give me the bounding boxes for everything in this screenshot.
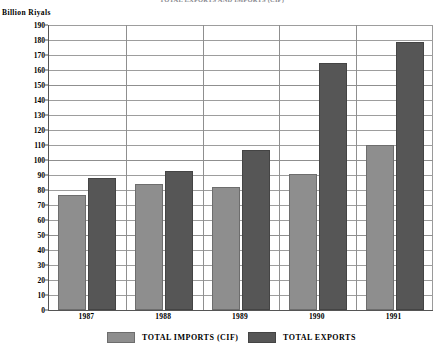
y-axis-tick-label: 120 [3, 126, 45, 135]
gridline [49, 130, 433, 131]
y-axis-tick-label: 170 [3, 51, 45, 60]
y-axis-tick-label: 0 [3, 306, 45, 315]
x-axis-tick-label: 1991 [386, 312, 402, 321]
category-divider [203, 25, 204, 310]
y-axis-tick-label: 80 [3, 186, 45, 195]
x-axis-labels: 19871988198919901991 [48, 312, 432, 326]
bar-1990-exports [319, 63, 347, 311]
bar-1991-exports [396, 42, 424, 311]
y-axis-tick-label: 40 [3, 246, 45, 255]
y-axis-tick-label: 150 [3, 81, 45, 90]
category-divider [126, 25, 127, 310]
bar-1988-exports [165, 171, 193, 311]
gridline [49, 115, 433, 116]
y-axis-tick-label: 140 [3, 96, 45, 105]
gridline [49, 25, 433, 26]
x-axis-tick-label: 1988 [155, 312, 171, 321]
category-divider [356, 25, 357, 310]
plot-right-border [432, 25, 433, 310]
bar-1991-imports [366, 145, 394, 310]
x-axis-tick-label: 1987 [78, 312, 94, 321]
legend-swatch-icon [248, 332, 276, 343]
chart-title: TOTAL EXPORTS AND IMPORTS (CIF) [0, 0, 444, 3]
gridline [49, 55, 433, 56]
bar-1987-exports [88, 178, 116, 310]
legend-item-imports[interactable]: TOTAL IMPORTS (CIF) [107, 332, 239, 343]
y-axis-tick-label: 60 [3, 216, 45, 225]
y-axis-tick-label: 10 [3, 291, 45, 300]
bar-1990-imports [289, 174, 317, 311]
y-axis-tick-label: 70 [3, 201, 45, 210]
legend-label: TOTAL IMPORTS (CIF) [142, 333, 239, 342]
category-divider [279, 25, 280, 310]
bar-1987-imports [58, 195, 86, 311]
y-axis-tick-label: 110 [3, 141, 45, 150]
chart-legend: TOTAL IMPORTS (CIF)TOTAL EXPORTS [0, 332, 444, 348]
x-axis-tick-label: 1989 [232, 312, 248, 321]
y-axis-tick-label: 30 [3, 261, 45, 270]
y-axis-tick-label: 160 [3, 66, 45, 75]
y-axis-tick-label: 130 [3, 111, 45, 120]
y-axis-ticks: 0102030405060708090100110120130140150160… [0, 25, 45, 310]
bar-1989-exports [242, 150, 270, 311]
y-axis-tick-label: 90 [3, 171, 45, 180]
plot-area [48, 25, 433, 311]
gridline [49, 70, 433, 71]
legend-label: TOTAL EXPORTS [283, 333, 356, 342]
legend-swatch-icon [107, 332, 135, 343]
gridline [49, 85, 433, 86]
gridline [49, 100, 433, 101]
bar-1989-imports [212, 187, 240, 310]
y-axis-tick-label: 180 [3, 36, 45, 45]
y-axis-tick-label: 50 [3, 231, 45, 240]
bar-1988-imports [135, 184, 163, 310]
bar-chart: TOTAL EXPORTS AND IMPORTS (CIF) Billion … [0, 0, 444, 352]
gridline [49, 40, 433, 41]
y-axis-tick-label: 190 [3, 21, 45, 30]
y-axis-unit-label: Billion Riyals [2, 8, 51, 17]
x-axis-tick-label: 1990 [309, 312, 325, 321]
y-axis-tick-label: 100 [3, 156, 45, 165]
y-axis-tick-label: 20 [3, 276, 45, 285]
legend-item-exports[interactable]: TOTAL EXPORTS [248, 332, 356, 343]
